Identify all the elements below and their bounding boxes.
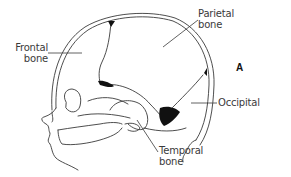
panel-letter: A	[236, 62, 243, 73]
mandible	[58, 123, 122, 131]
skull-outline-outer	[52, 13, 214, 145]
lambdoid-suture	[168, 75, 203, 112]
frontal-bone-label: Frontal bone	[10, 42, 48, 64]
posterior-fontanelle-mark	[204, 68, 207, 76]
skull-outline-inner	[56, 17, 209, 140]
temporal-bone-label: Temporal bone	[159, 145, 203, 167]
coronal-suture	[99, 22, 111, 82]
occipital-label: Occipital	[218, 97, 260, 108]
face-profile	[42, 108, 78, 170]
parietal-leader	[163, 20, 198, 47]
orbit	[64, 89, 80, 112]
mastoid-fontanelle	[159, 107, 180, 126]
occipital-line1: Occipital	[218, 97, 260, 108]
anterior-fontanelle-mark	[108, 21, 115, 27]
frontal-line2: bone	[10, 53, 48, 64]
frontal-line1: Frontal	[10, 42, 48, 53]
parietal-line1: Parietal	[198, 8, 234, 19]
temporal-line2: bone	[159, 156, 203, 167]
parietal-line2: bone	[198, 19, 234, 30]
parietal-bone-label: Parietal bone	[198, 8, 234, 30]
temporal-line1: Temporal	[159, 145, 203, 156]
sphenoidal-fontanelle	[98, 81, 114, 87]
temporal-leader	[137, 120, 158, 152]
skull-diagram	[0, 0, 291, 177]
